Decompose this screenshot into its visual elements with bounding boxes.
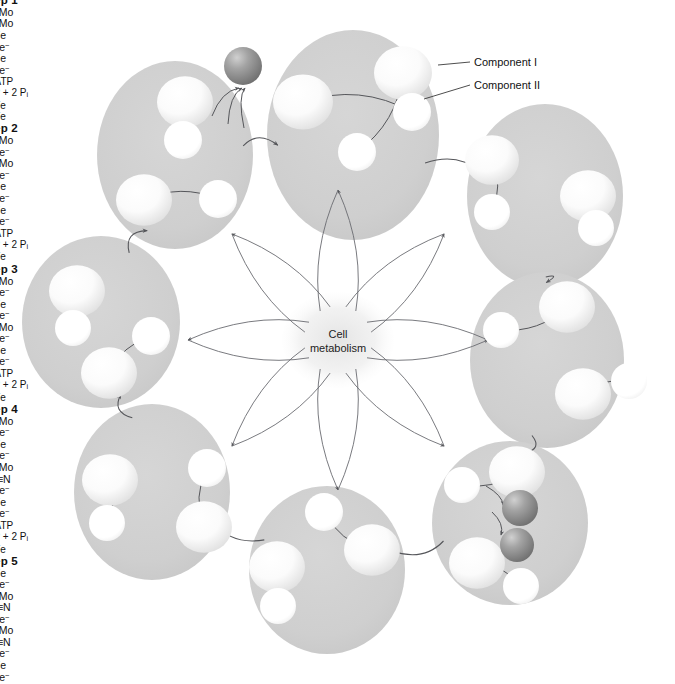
- step5-fe-top[interactable]: [305, 493, 343, 531]
- step2-fe-right-text-1: 1 e−: [0, 216, 28, 228]
- step8-femo-lower[interactable]: [116, 174, 172, 226]
- step-5-label: Step 5: [0, 554, 28, 567]
- step7-fe-left[interactable]: [55, 310, 91, 346]
- step2-fe-right[interactable]: [578, 210, 614, 246]
- step-1-step1-fe-out-left: Fe: [0, 100, 28, 111]
- step3-femo-lower[interactable]: [555, 368, 611, 420]
- metabolism-petal-6-in: [232, 373, 330, 446]
- ammonia-sphere[interactable]: [224, 47, 262, 85]
- step5-femo-left[interactable]: [249, 541, 305, 593]
- dihydrogen-sphere[interactable]: [500, 528, 534, 562]
- step2-fe-left[interactable]: [474, 194, 510, 230]
- step5-fe-bottom[interactable]: [260, 588, 296, 624]
- step1-femo-left[interactable]: [273, 74, 333, 129]
- step8-fe-lower[interactable]: [199, 180, 237, 218]
- step-3-step3-adppi: 2 ADP + 2 Pi: [0, 379, 28, 392]
- step-4-step4-adppi: 2 ADP + 2 Pi: [0, 531, 28, 544]
- step1-fe-bottom[interactable]: [338, 133, 376, 171]
- step6-femo-right[interactable]: [176, 501, 232, 553]
- callout-component-i: Component I: [474, 56, 537, 68]
- step2-femo-upper[interactable]: [465, 135, 519, 185]
- diagram-canvas: Component I Component II Cell metabolism…: [0, 0, 675, 684]
- callout-line-component-i: [438, 62, 470, 65]
- step4-fe-left[interactable]: [444, 467, 480, 503]
- step4-fe-right[interactable]: [503, 568, 539, 604]
- step1-femo-right[interactable]: [374, 46, 432, 99]
- step-2-step2-adppi: 2 ADP + 2 Pi: [0, 238, 28, 251]
- step7-fe-right[interactable]: [132, 317, 170, 355]
- step-3-label: Step 3: [0, 262, 28, 275]
- step3-fe-right-text-1: 1 e−: [0, 357, 28, 369]
- step6-fe-right[interactable]: [188, 449, 226, 487]
- step8-fe-upper[interactable]: [164, 121, 202, 159]
- dinitrogen-sphere[interactable]: [502, 490, 538, 526]
- step8-femo-upper[interactable]: [157, 76, 213, 128]
- cell-metabolism-line-2: metabolism: [310, 342, 366, 354]
- step7-femo-lower[interactable]: [81, 347, 137, 399]
- step5-femo-right[interactable]: [344, 524, 400, 576]
- step4-fe-right-text-1: 1 e−: [0, 508, 28, 520]
- step3-femo-upper[interactable]: [539, 281, 595, 333]
- step6-fe-left[interactable]: [89, 505, 125, 541]
- callout-component-ii: Component II: [474, 79, 540, 91]
- step4-femo-lower[interactable]: [449, 537, 505, 589]
- step5-fe-bottom-text-1: 1 e−: [0, 672, 28, 684]
- metabolism-petal-2-in: [346, 234, 444, 307]
- cell-metabolism-line-1: Cell: [329, 328, 348, 340]
- step-2-label: Step 2: [0, 122, 28, 135]
- step3-fe-right[interactable]: [611, 363, 647, 399]
- step3-fe-left[interactable]: [483, 312, 519, 348]
- step1-fe-bottom-text-1: 1 e−: [0, 65, 28, 77]
- step6-femo-left[interactable]: [82, 454, 138, 506]
- step-4-label: Step 4: [0, 402, 28, 415]
- step4-femo-upper[interactable]: [489, 446, 545, 498]
- metabolism-petal-4-out: [346, 373, 444, 446]
- step-1-step1-adppi: 2 ADP + 2 Pi: [0, 87, 28, 100]
- metabolism-petal-8-out: [232, 234, 330, 307]
- step7-femo-upper[interactable]: [49, 265, 105, 317]
